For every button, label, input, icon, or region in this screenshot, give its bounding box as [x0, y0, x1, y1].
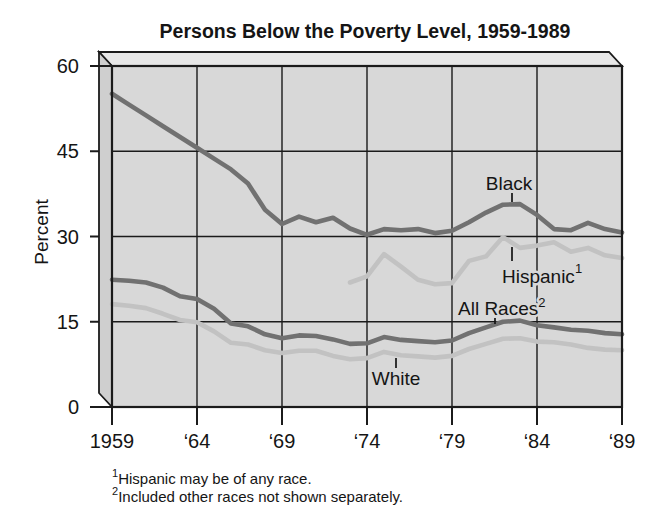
chart-title: Persons Below the Poverty Level, 1959-19… — [160, 20, 571, 42]
hispanic-label-text: Hispanic — [502, 266, 575, 287]
y-tick-label-30: 30 — [57, 226, 79, 248]
box-top-face — [99, 52, 622, 66]
x-tick-label-1959: 1959 — [90, 430, 135, 452]
all-races-label-superscript: 2 — [538, 295, 545, 310]
y-tick-label-45: 45 — [57, 140, 79, 162]
footnote-hispanic: 1Hispanic may be of any race. — [112, 467, 312, 487]
y-tick-label-15: 15 — [57, 311, 79, 333]
footnote-2-text: Included other races not shown separatel… — [118, 488, 403, 505]
x-tick-label-1984: ‘84 — [524, 430, 551, 452]
y-tick-label-60: 60 — [57, 55, 79, 77]
y-tick-label-0: 0 — [68, 396, 79, 418]
x-tick-label-1974: ‘74 — [354, 430, 381, 452]
poverty-line-chart: Persons Below the Poverty Level, 1959-19… — [0, 0, 661, 526]
x-tick-label-1969: ‘69 — [269, 430, 296, 452]
hispanic-label-superscript: 1 — [575, 261, 582, 276]
x-tick-label-1964: ‘64 — [184, 430, 211, 452]
footnote-all-races: 2Included other races not shown separate… — [112, 485, 403, 505]
white-series-label: White — [372, 368, 421, 389]
x-tick-label-1989: ‘89 — [609, 430, 636, 452]
x-axis: 1959‘64‘69‘74‘79‘84‘89 — [90, 407, 636, 452]
y-axis-title: Percent — [31, 199, 52, 265]
chart-page: Persons Below the Poverty Level, 1959-19… — [0, 0, 661, 526]
all-races-label-text: All Races — [458, 298, 538, 319]
footnote-1-text: Hispanic may be of any race. — [118, 470, 311, 487]
x-tick-label-1979: ‘79 — [439, 430, 466, 452]
box-left-face — [99, 52, 112, 407]
all-races-series-label: All Races2 — [458, 295, 545, 319]
black-series-label: Black — [486, 173, 533, 194]
